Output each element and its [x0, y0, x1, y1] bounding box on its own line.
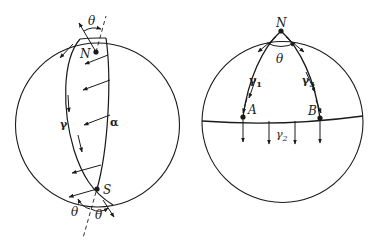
left-sphere-outline: [16, 43, 180, 207]
curve-top-join: [80, 38, 106, 39]
north-dashed-axis: [96, 16, 106, 52]
label-gamma: γ: [60, 118, 68, 131]
vector-arrow-4: [72, 165, 101, 173]
angle-arc-bottom-left: [78, 199, 90, 209]
vector-arrow-2: [83, 80, 110, 90]
label-theta-right: θ: [276, 52, 284, 66]
vector-arrow-3: [84, 115, 110, 125]
label-north-right: N: [275, 16, 287, 30]
equator-gamma2: [202, 116, 363, 123]
tangent-arrow-gamma-2: [68, 95, 69, 112]
label-theta-top: θ: [88, 14, 96, 28]
label-theta-bottom-left: θ: [71, 205, 79, 219]
tangent-arrow-gamma3-top: [286, 37, 304, 52]
label-theta-bottom-right: θ: [95, 208, 103, 222]
figure-canvas: θ N S θ θ γ α: [0, 0, 377, 245]
curve-gamma: [66, 39, 113, 205]
label-north-left: N: [79, 47, 91, 61]
label-gamma2: γ2: [276, 128, 288, 143]
label-gamma3: γ3: [302, 74, 315, 89]
right-sphere: N θ A B γ1 γ3 γ2: [202, 16, 363, 203]
vector-arrow-5: [69, 189, 97, 197]
tangent-arrow-gamma-3: [78, 135, 82, 152]
south-point: [94, 186, 99, 191]
point-a: [240, 114, 245, 119]
point-b: [317, 115, 322, 120]
label-point-b: B: [307, 104, 317, 118]
label-south: S: [103, 183, 111, 197]
curve-alpha: [97, 38, 109, 189]
label-gamma1: γ1: [249, 74, 262, 89]
angle-arc-right: [267, 43, 295, 47]
angle-arc-top: [84, 28, 101, 31]
label-alpha: α: [110, 116, 119, 129]
label-point-a: A: [247, 103, 257, 117]
tangent-arrow-gamma1-bottom: [243, 98, 247, 113]
left-sphere: θ N S θ θ γ α: [16, 14, 180, 238]
